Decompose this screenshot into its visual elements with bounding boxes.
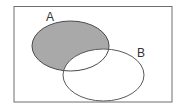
set-b-label: B	[137, 46, 145, 60]
venn-diagram: A B	[0, 0, 181, 111]
set-a-label: A	[46, 10, 54, 24]
